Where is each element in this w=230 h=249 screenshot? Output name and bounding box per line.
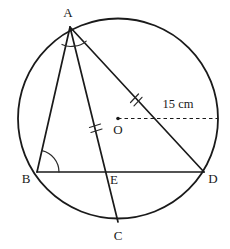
geometry-canvas: A B C D E O 15 cm: [0, 0, 230, 249]
chord-ac: [70, 27, 118, 222]
point-label-c: C: [114, 228, 123, 243]
geometry-figure: A B C D E O 15 cm: [0, 0, 230, 249]
angle-mark-b: [42, 151, 59, 172]
point-label-b: B: [22, 171, 31, 186]
point-label-a: A: [63, 5, 73, 20]
point-label-e: E: [110, 172, 118, 187]
radius-measure-label: 15 cm: [163, 97, 194, 111]
point-label-d: D: [208, 171, 217, 186]
center-dot: [116, 117, 120, 121]
center-label-o: O: [113, 122, 122, 137]
